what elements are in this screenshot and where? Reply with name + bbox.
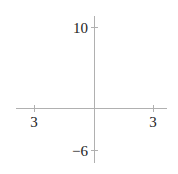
x-tick-label-left: 3	[30, 114, 38, 130]
y-tick-label-top: 10	[73, 20, 88, 36]
y-tick-label-bottom: −6	[72, 143, 88, 159]
x-tick-label-right: 3	[149, 114, 157, 130]
chart-canvas: 3 3 10 −6	[0, 0, 178, 174]
